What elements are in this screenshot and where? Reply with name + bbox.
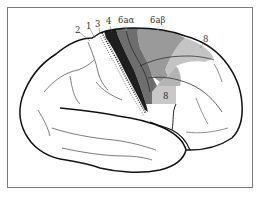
superior-temporal-sulcus (52, 128, 156, 150)
label-area-6a-beta: 6aβ (150, 15, 165, 25)
label-area-4: 4 (106, 16, 111, 26)
lateral-sulcus (60, 108, 186, 150)
inferior-temporal-sulcus (62, 148, 152, 160)
brain-diagram: 2 1 3 4 6aα 6aβ 8 8 (0, 0, 260, 197)
parietal-sulcus (44, 60, 94, 92)
label-area-1: 1 (86, 21, 91, 31)
label-area-3: 3 (95, 19, 100, 29)
label-area-8-upper: 8 (203, 34, 208, 44)
label-area-6a-alpha: 6aα (118, 15, 134, 25)
label-area-2: 2 (75, 25, 80, 35)
label-area-8-lower: 8 (163, 91, 168, 101)
